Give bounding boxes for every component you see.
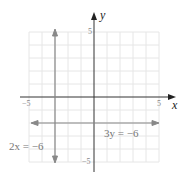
line-3y-eq-neg6 xyxy=(31,121,159,126)
arrow-right-icon xyxy=(152,121,159,126)
arrow-up-icon xyxy=(53,29,58,36)
x-tick-min: −5 xyxy=(22,100,31,108)
y-axis-label: y xyxy=(100,9,105,21)
y-tick-max: 5 xyxy=(88,28,92,36)
line-2x-eq-neg6 xyxy=(53,29,58,163)
x-axis-label: x xyxy=(172,99,177,111)
equation-label-vertical: 2x = −6 xyxy=(9,141,43,152)
equation-label-horizontal: 3y = −6 xyxy=(104,128,138,139)
x-axis xyxy=(20,94,176,100)
y-tick-min: −5 xyxy=(82,158,91,166)
y-axis-arrow-icon xyxy=(91,12,97,20)
y-axis xyxy=(91,12,97,172)
x-tick-max: 5 xyxy=(157,100,161,108)
arrow-left-icon xyxy=(31,121,38,126)
